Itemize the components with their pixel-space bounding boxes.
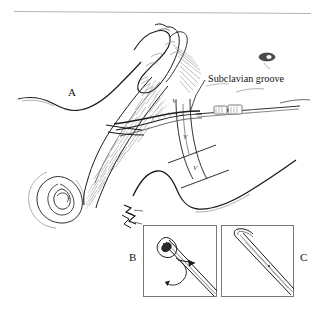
jaw-neck-contour xyxy=(18,62,141,111)
sternocleidomastoid-outline xyxy=(84,77,168,208)
needle-shaft-mark xyxy=(268,265,270,267)
needle-catheter-hub xyxy=(196,105,300,117)
sketch-oval-mark xyxy=(259,53,275,69)
panel-a-letter: A xyxy=(68,86,76,98)
subclavian-groove-label: Subclavian groove xyxy=(208,73,285,84)
panel-b-inset: B xyxy=(129,226,217,297)
v-mark-3: V xyxy=(193,164,198,172)
shoulder-contour xyxy=(133,84,310,212)
palpating-hand xyxy=(134,24,187,93)
panel-b-letter: B xyxy=(129,251,136,263)
anatomical-illustration: V V V xyxy=(0,0,323,309)
panel-c-inset: C xyxy=(222,226,308,297)
entry-zigzag-markers xyxy=(122,205,143,228)
figure-container: V V V xyxy=(0,0,323,309)
v-mark-2: V xyxy=(183,133,188,141)
panel-a-drawing: V V V xyxy=(18,24,310,228)
v-mark-1: V xyxy=(172,97,177,105)
ear-outline xyxy=(29,172,85,228)
clavicle-band: V V V xyxy=(172,97,207,179)
top-rule xyxy=(14,12,311,14)
subclavian-vessel xyxy=(106,111,202,136)
catheter-hub-wing xyxy=(228,105,242,114)
reference-lines xyxy=(168,145,229,188)
panel-c-letter: C xyxy=(300,251,307,263)
